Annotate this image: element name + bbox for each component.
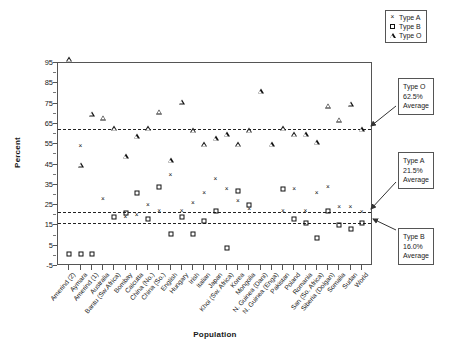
- annotation-type-b-line2: 16.0%: [403, 242, 429, 252]
- data-point-type-o: [325, 103, 331, 108]
- x-axis-tick-labels: Amerind (2)AymaraAmerind (1)AustraliaBan…: [0, 271, 475, 341]
- legend-item-type-a: × Type A: [389, 13, 422, 22]
- legend-label-type-a: Type A: [399, 13, 420, 22]
- y-tick-minor-mark: [53, 174, 56, 175]
- data-point-type-b: [146, 217, 151, 222]
- x-tick-mark: [248, 265, 249, 270]
- data-point-type-o: [348, 101, 354, 106]
- data-point-type-a: ×: [180, 208, 184, 215]
- reference-line: [58, 129, 371, 130]
- y-tick-label: 15: [31, 220, 53, 229]
- y-tick-minor-mark: [53, 235, 56, 236]
- data-point-type-o: [213, 136, 219, 141]
- plot-area: ××××××××××××××××××××××: [57, 62, 372, 265]
- data-point-type-o: [246, 127, 252, 132]
- y-tick-mark: [53, 245, 57, 246]
- x-tick-mark: [316, 265, 317, 270]
- y-tick-mark: [53, 184, 57, 185]
- data-point-type-a: ×: [326, 184, 330, 191]
- data-point-type-o: [179, 99, 185, 104]
- data-point-type-a: ×: [225, 186, 229, 193]
- legend-label-type-o: Type O: [399, 31, 422, 40]
- data-point-type-a: ×: [101, 196, 105, 203]
- data-point-type-o: [269, 142, 275, 147]
- x-tick-mark: [158, 265, 159, 270]
- data-point-type-o: [291, 132, 297, 137]
- data-point-type-b: [314, 235, 319, 240]
- data-point-type-b: [247, 203, 252, 208]
- y-tick-label: 35: [31, 179, 53, 188]
- y-tick-minor-mark: [53, 92, 56, 93]
- y-tick-label: 95: [31, 58, 53, 67]
- data-point-type-b: [67, 251, 72, 256]
- x-tick-mark: [305, 265, 306, 270]
- blood-type-distribution-chart: Percent Population ×××××××××××××××××××××…: [0, 0, 475, 348]
- y-tick-minor-mark: [53, 133, 56, 134]
- annotation-type-b-line3: Average: [403, 251, 429, 261]
- x-tick-mark: [361, 265, 362, 270]
- data-point-type-o: [89, 111, 95, 116]
- annotation-type-a-line1: Type A: [403, 156, 429, 166]
- data-point-type-a: ×: [349, 204, 353, 211]
- data-point-type-a: ×: [202, 190, 206, 197]
- y-tick-minor-mark: [53, 72, 56, 73]
- arrow-type-a: [371, 182, 396, 209]
- annotation-type-a-average: Type A 21.5% Average: [398, 152, 434, 189]
- data-point-type-o: [359, 126, 365, 131]
- data-point-type-o: [100, 115, 106, 120]
- x-tick-mark: [181, 265, 182, 270]
- data-point-type-a: ×: [337, 204, 341, 211]
- data-point-type-o: [258, 89, 264, 94]
- x-tick-mark: [68, 265, 69, 270]
- y-tick-mark: [53, 164, 57, 165]
- data-point-type-a: ×: [281, 208, 285, 215]
- data-point-type-o: [134, 134, 140, 139]
- y-tick-mark: [53, 103, 57, 104]
- x-tick-mark: [136, 265, 137, 270]
- y-tick-label: 65: [31, 118, 53, 127]
- data-point-type-o: [224, 132, 230, 137]
- data-point-type-o: [111, 125, 117, 130]
- y-tick-minor-mark: [53, 214, 56, 215]
- y-tick-minor-mark: [53, 153, 56, 154]
- data-point-type-a: ×: [304, 208, 308, 215]
- arrow-type-b: [373, 219, 396, 230]
- data-point-type-o: [156, 109, 162, 114]
- data-point-type-b: [134, 190, 139, 195]
- data-point-type-b: [224, 245, 229, 250]
- triangle-marker-icon: [389, 32, 396, 39]
- data-point-type-o: [235, 142, 241, 147]
- x-tick-mark: [147, 265, 148, 270]
- annotation-type-o-line2: 62.5%: [403, 92, 429, 102]
- y-tick-label: 45: [31, 159, 53, 168]
- data-point-type-b: [281, 186, 286, 191]
- data-point-type-b: [89, 251, 94, 256]
- data-point-type-a: ×: [124, 214, 128, 221]
- x-tick-mark: [327, 265, 328, 270]
- y-axis-title: Percent: [13, 123, 22, 183]
- data-point-type-a: ×: [214, 175, 218, 182]
- x-tick-mark: [91, 265, 92, 270]
- y-tick-mark: [53, 82, 57, 83]
- y-tick-mark: [53, 62, 57, 63]
- data-point-type-o: [66, 56, 72, 61]
- data-point-type-b: [179, 215, 184, 220]
- data-point-type-b: [191, 231, 196, 236]
- y-tick-mark: [53, 224, 57, 225]
- data-point-type-o: [280, 125, 286, 130]
- data-point-type-b: [236, 188, 241, 193]
- data-point-type-b: [78, 251, 83, 256]
- legend-item-type-o: Type O: [389, 31, 422, 40]
- x-tick-mark: [170, 265, 171, 270]
- x-tick-mark: [113, 265, 114, 270]
- y-tick-mark: [53, 204, 57, 205]
- y-tick-label: 25: [31, 200, 53, 209]
- data-point-type-a: ×: [79, 143, 83, 150]
- data-point-type-o: [336, 117, 342, 122]
- x-tick-mark: [282, 265, 283, 270]
- y-tick-label: 85: [31, 78, 53, 87]
- x-tick-mark: [192, 265, 193, 270]
- x-tick-mark: [271, 265, 272, 270]
- legend-item-type-b: Type B: [389, 22, 422, 31]
- y-tick-mark: [53, 123, 57, 124]
